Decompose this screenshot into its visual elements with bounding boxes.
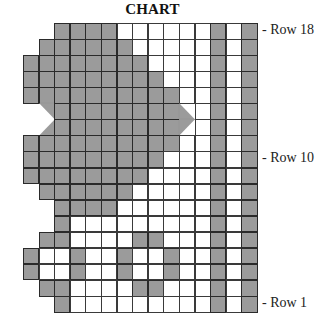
stitch-filled bbox=[132, 151, 148, 168]
stitch-blank bbox=[70, 232, 86, 249]
stitch-filled bbox=[39, 184, 55, 201]
stitch-blank bbox=[195, 119, 211, 136]
stitch-blank bbox=[163, 55, 179, 72]
stitch-blank bbox=[195, 23, 211, 40]
stitch-filled bbox=[241, 216, 257, 233]
stitch-filled bbox=[210, 71, 226, 88]
stitch-blank bbox=[148, 248, 164, 265]
stitch-filled bbox=[210, 87, 226, 104]
stitch-filled bbox=[132, 232, 148, 249]
stitch-blank bbox=[195, 184, 211, 201]
stitch-filled bbox=[23, 55, 39, 72]
stitch-blank bbox=[101, 216, 117, 233]
stitch-blank bbox=[226, 264, 242, 281]
stitch-blank bbox=[195, 103, 211, 120]
stitch-filled bbox=[54, 232, 70, 249]
stitch-filled bbox=[241, 55, 257, 72]
stitch-filled bbox=[70, 103, 86, 120]
stitch-blank bbox=[132, 216, 148, 233]
stitch-blank bbox=[195, 168, 211, 185]
stitch-filled bbox=[241, 23, 257, 40]
stitch-blank bbox=[179, 23, 195, 40]
row-label-18: - Row 18 bbox=[262, 22, 314, 38]
stitch-filled bbox=[85, 103, 101, 120]
stitch-filled bbox=[210, 135, 226, 152]
stitch-filled bbox=[23, 71, 39, 88]
stitch-blank bbox=[85, 216, 101, 233]
stitch-filled bbox=[54, 200, 70, 217]
stitch-blank bbox=[132, 200, 148, 217]
stitch-blank bbox=[70, 296, 86, 313]
stitch-blank bbox=[226, 216, 242, 233]
stitch-blank bbox=[163, 23, 179, 40]
stitch-filled bbox=[117, 184, 133, 201]
stitch-blank bbox=[226, 296, 242, 313]
stitch-filled bbox=[54, 71, 70, 88]
stitch-filled bbox=[85, 87, 101, 104]
stitch-filled bbox=[241, 71, 257, 88]
stitch-filled bbox=[241, 296, 257, 313]
stitch-half-triangle bbox=[39, 103, 55, 120]
stitch-blank bbox=[148, 296, 164, 313]
stitch-blank bbox=[195, 200, 211, 217]
stitch-filled bbox=[132, 55, 148, 72]
stitch-filled bbox=[70, 87, 86, 104]
stitch-blank bbox=[117, 296, 133, 313]
stitch-filled bbox=[101, 39, 117, 56]
stitch-filled bbox=[148, 151, 164, 168]
stitch-filled bbox=[54, 103, 70, 120]
stitch-filled bbox=[163, 103, 179, 120]
stitch-blank bbox=[148, 168, 164, 185]
stitch-filled bbox=[85, 151, 101, 168]
stitch-filled bbox=[54, 39, 70, 56]
stitch-blank bbox=[195, 280, 211, 297]
stitch-blank bbox=[179, 184, 195, 201]
stitch-blank bbox=[179, 200, 195, 217]
stitch-blank bbox=[70, 280, 86, 297]
stitch-filled bbox=[54, 151, 70, 168]
stitch-blank bbox=[226, 248, 242, 265]
stitch-filled bbox=[163, 87, 179, 104]
stitch-filled bbox=[54, 55, 70, 72]
stitch-filled bbox=[23, 264, 39, 281]
stitch-filled bbox=[210, 55, 226, 72]
stitch-filled bbox=[210, 184, 226, 201]
stitch-filled bbox=[210, 296, 226, 313]
stitch-blank bbox=[179, 232, 195, 249]
stitch-filled bbox=[70, 200, 86, 217]
stitch-blank bbox=[195, 232, 211, 249]
stitch-blank bbox=[179, 280, 195, 297]
stitch-blank bbox=[179, 151, 195, 168]
stitch-blank bbox=[226, 135, 242, 152]
stitch-blank bbox=[226, 119, 242, 136]
stitch-filled bbox=[210, 264, 226, 281]
stitch-blank bbox=[195, 135, 211, 152]
stitch-filled bbox=[132, 71, 148, 88]
stitch-blank bbox=[195, 39, 211, 56]
stitch-blank bbox=[148, 23, 164, 40]
stitch-filled bbox=[117, 39, 133, 56]
stitch-filled bbox=[39, 135, 55, 152]
stitch-filled bbox=[54, 184, 70, 201]
stitch-filled bbox=[163, 135, 179, 152]
stitch-blank bbox=[117, 200, 133, 217]
stitch-filled bbox=[132, 87, 148, 104]
stitch-filled bbox=[70, 119, 86, 136]
stitch-filled bbox=[85, 39, 101, 56]
stitch-blank bbox=[179, 87, 195, 104]
stitch-blank bbox=[163, 200, 179, 217]
stitch-filled bbox=[241, 151, 257, 168]
stitch-filled bbox=[241, 264, 257, 281]
stitch-blank bbox=[179, 168, 195, 185]
stitch-half-triangle bbox=[39, 119, 55, 136]
stitch-filled bbox=[85, 55, 101, 72]
stitch-filled bbox=[101, 103, 117, 120]
stitch-blank bbox=[179, 135, 195, 152]
stitch-filled bbox=[101, 200, 117, 217]
stitch-filled bbox=[54, 23, 70, 40]
stitch-filled bbox=[132, 103, 148, 120]
stitch-filled bbox=[85, 23, 101, 40]
stitch-blank bbox=[70, 216, 86, 233]
stitch-filled bbox=[101, 55, 117, 72]
stitch-blank bbox=[179, 296, 195, 313]
